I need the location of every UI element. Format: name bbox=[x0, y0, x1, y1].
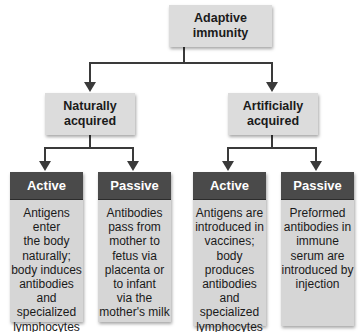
artificial-passive-description: Preformed antibodies in immune serum are… bbox=[281, 200, 354, 326]
artificial-active-header: Active bbox=[193, 172, 266, 200]
artificially-acquired-label-line1: Artificially bbox=[243, 99, 303, 114]
artificially-acquired-box: Artificially acquired bbox=[228, 93, 318, 135]
adaptive-immunity-label-line2: immunity bbox=[193, 26, 249, 41]
root-connector bbox=[90, 47, 272, 84]
artificial-active-card: Active Antigens are introduced in vaccin… bbox=[193, 172, 266, 326]
naturally-acquired-label-line2: acquired bbox=[63, 114, 117, 129]
arrow-to-artificial-active bbox=[222, 161, 234, 171]
natural-active-header: Active bbox=[10, 172, 83, 200]
arrow-to-natural-active bbox=[39, 161, 51, 171]
arrow-to-artificial-passive bbox=[310, 161, 322, 171]
arrow-to-naturally bbox=[84, 82, 96, 92]
natural-active-card: Active Antigens enter the body naturally… bbox=[10, 172, 83, 322]
artificial-active-description: Antigens are introduced in vaccines; bod… bbox=[193, 200, 266, 326]
adaptive-immunity-label-line1: Adaptive bbox=[193, 11, 249, 26]
naturally-acquired-label-line1: Naturally bbox=[63, 99, 117, 114]
arrow-to-artificially bbox=[266, 82, 278, 92]
natural-passive-header: Passive bbox=[98, 172, 171, 200]
naturally-connector bbox=[45, 135, 133, 162]
artificial-passive-card: Passive Preformed antibodies in immune s… bbox=[281, 172, 354, 326]
natural-active-description: Antigens enter the body naturally; body … bbox=[10, 200, 83, 322]
natural-passive-card: Passive Antibodies pass from mother to f… bbox=[98, 172, 171, 322]
arrow-to-natural-passive bbox=[127, 161, 139, 171]
artificially-connector bbox=[228, 135, 316, 162]
natural-passive-description: Antibodies pass from mother to fetus via… bbox=[98, 200, 171, 322]
artificial-passive-header: Passive bbox=[281, 172, 354, 200]
adaptive-immunity-box: Adaptive immunity bbox=[169, 5, 272, 47]
artificially-acquired-label-line2: acquired bbox=[243, 114, 303, 129]
naturally-acquired-box: Naturally acquired bbox=[45, 93, 135, 135]
